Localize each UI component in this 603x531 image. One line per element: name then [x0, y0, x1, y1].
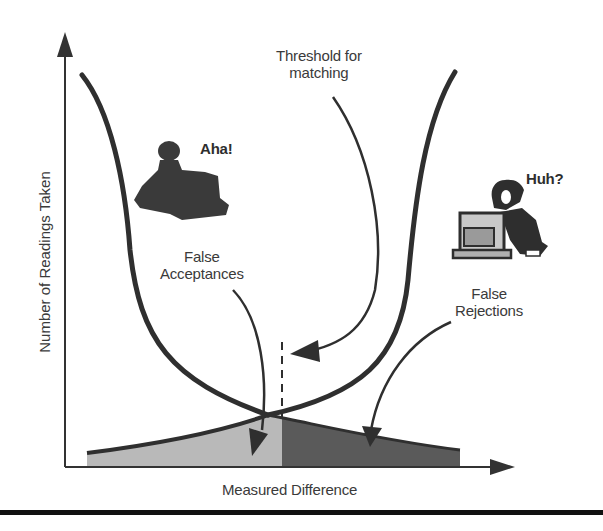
false-rejections-label: False Rejections [455, 285, 523, 319]
aha-label: Aha! [200, 140, 233, 157]
y-axis-arrow-icon [57, 32, 73, 57]
false-acceptances-label: False Acceptances [160, 248, 244, 282]
x-axis-label: Measured Difference [222, 481, 357, 498]
false-rejection-curve [268, 72, 455, 415]
threshold-label-line1: Threshold for [276, 47, 362, 64]
biometric-threshold-diagram: Number of Readings Taken Measured Differ… [0, 0, 603, 531]
false-rejections-label-line2: Rejections [455, 302, 523, 319]
huh-label: Huh? [526, 170, 564, 187]
x-axis-arrow-icon [490, 459, 515, 475]
false-acceptances-label-line1: False [160, 248, 244, 265]
false-rejection-area [268, 415, 460, 466]
x-axis-label-text: Measured Difference [222, 481, 357, 498]
bottom-rule [0, 510, 603, 515]
false-rejections-pointer [371, 322, 451, 430]
threshold-pointer [305, 97, 378, 352]
false-rejections-label-line1: False [455, 285, 523, 302]
threshold-arrowhead-icon [290, 340, 320, 362]
false-acceptances-label-line2: Acceptances [160, 265, 244, 282]
y-axis-label: Number of Readings Taken [36, 171, 53, 353]
threshold-label-line2: matching [276, 64, 362, 81]
threshold-label: Threshold for matching [276, 47, 362, 81]
false-acceptance-curve [82, 75, 268, 415]
person-at-computer-icon [453, 180, 548, 258]
